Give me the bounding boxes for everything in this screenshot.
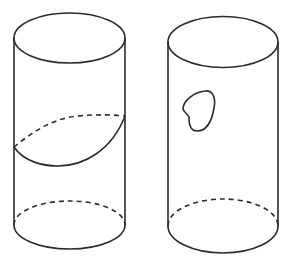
- right-cylinder-blob-curve: [183, 91, 215, 131]
- figure: [0, 0, 289, 259]
- left-cylinder-bottom-back-arc: [14, 201, 125, 225]
- right-cylinder: [168, 17, 278, 254]
- left-cylinder-cut-back-curve: [14, 115, 125, 147]
- left-cylinder-cut-front-curve: [14, 116, 125, 166]
- right-cylinder-top-ellipse: [168, 17, 278, 68]
- left-cylinder-top-ellipse: [14, 13, 125, 63]
- left-cylinder: [14, 13, 125, 249]
- diagram-canvas: [0, 0, 289, 259]
- right-cylinder-bottom-back-arc: [168, 199, 278, 226]
- left-cylinder-bottom-front-arc: [14, 225, 125, 249]
- right-cylinder-bottom-front-arc: [168, 226, 278, 253]
